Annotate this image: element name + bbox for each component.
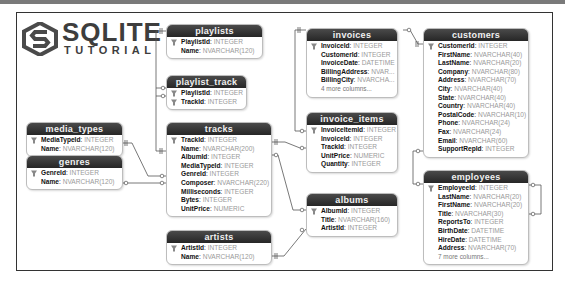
- column-row: AlbumId: INTEGER: [307, 207, 397, 216]
- column-row: Name: NVARCHAR(120): [27, 178, 122, 187]
- column-row: TrackId: INTEGER: [307, 143, 397, 152]
- more-columns-link[interactable]: 7 more columns...: [424, 253, 528, 262]
- column-row: LastName: NVARCHAR(20): [424, 193, 528, 202]
- table-invoices[interactable]: invoices InvoiceId: INTEGER CustomerId: …: [306, 28, 398, 98]
- column-row: TrackId: INTEGER: [167, 98, 246, 107]
- rel-employees-customers: [413, 151, 423, 184]
- column-row: CustomerId: INTEGER: [307, 51, 397, 60]
- column-row: Name: NVARCHAR(120): [167, 47, 262, 56]
- primary-key-icon: [170, 90, 178, 97]
- table-artists[interactable]: artists ArtistId: INTEGER Name: NVARCHAR…: [166, 230, 272, 265]
- column-row: Country: NVARCHAR(40): [424, 102, 528, 111]
- column-row: UnitPrice: NUMERIC: [307, 152, 397, 161]
- table-tracks[interactable]: tracks TrackId: INTEGER Name: NVARCHAR(2…: [166, 122, 272, 217]
- column-row: FirstName: NVARCHAR(20): [424, 201, 528, 210]
- column-row: Address: NVARCHAR(70): [424, 76, 528, 85]
- column-row: City: NVARCHAR(40): [424, 85, 528, 94]
- column-row: ArtistId: INTEGER: [167, 244, 271, 253]
- column-row: GenreId: INTEGER: [167, 170, 271, 179]
- column-row: Name: NVARCHAR(120): [167, 253, 271, 262]
- column-row: InvoiceItemId: INTEGER: [307, 126, 397, 135]
- primary-key-icon: [310, 127, 318, 134]
- primary-key-icon: [170, 99, 178, 106]
- column-row: UnitPrice: NUMERIC: [167, 205, 271, 214]
- table-playlist-track[interactable]: playlist_track PlaylistId: INTEGER Track…: [166, 75, 247, 110]
- primary-key-icon: [170, 245, 178, 252]
- more-columns-link[interactable]: 4 more columns...: [307, 85, 397, 94]
- table-header: customers: [424, 29, 528, 41]
- column-row: MediaTypeId: INTEGER: [167, 162, 271, 171]
- column-row: GenreId: INTEGER: [27, 169, 122, 178]
- table-header: playlists: [167, 25, 262, 37]
- primary-key-icon: [427, 43, 435, 50]
- column-row: InvoiceId: INTEGER: [307, 135, 397, 144]
- rel-customers-invoices: [403, 30, 423, 44]
- table-header: media_types: [27, 123, 122, 135]
- column-row: AlbumId: INTEGER: [167, 153, 271, 162]
- table-albums[interactable]: albums AlbumId: INTEGER Title: NVARCHAR(…: [306, 193, 398, 237]
- column-row: Email: NVARCHAR(60): [424, 137, 528, 146]
- rel-media-types-tracks: [121, 143, 166, 176]
- rel-tracks-albums: [270, 155, 306, 210]
- column-row: ArtistId: INTEGER: [307, 224, 397, 233]
- column-row: FirstName: NVARCHAR(40): [424, 51, 528, 60]
- table-header: invoice_items: [307, 113, 397, 125]
- rel-playlists-tracks: [156, 31, 166, 151]
- column-row: Quantity: INTEGER: [307, 160, 397, 169]
- column-row: Address: NVARCHAR(70): [424, 244, 528, 253]
- table-genres[interactable]: genres GenreId: INTEGER Name: NVARCHAR(1…: [26, 155, 123, 190]
- table-employees[interactable]: employees EmployeeId: INTEGER LastName: …: [423, 170, 529, 265]
- table-header: tracks: [167, 123, 271, 135]
- primary-key-icon: [170, 137, 178, 144]
- column-row: Milliseconds: INTEGER: [167, 188, 271, 197]
- primary-key-icon: [30, 170, 38, 177]
- table-header: artists: [167, 231, 271, 243]
- table-invoice-items[interactable]: invoice_items InvoiceItemId: INTEGER Inv…: [306, 112, 398, 173]
- column-row: Fax: NVARCHAR(24): [424, 128, 528, 137]
- rel-invoices-invoice-items: [295, 30, 306, 131]
- table-header: employees: [424, 171, 528, 183]
- column-row: InvoiceDate: DATETIME: [307, 59, 397, 68]
- table-header: genres: [27, 156, 122, 168]
- column-row: BirthDate: DATETIME: [424, 227, 528, 236]
- table-customers[interactable]: customers CustomerId: INTEGER FirstName:…: [423, 28, 529, 158]
- column-row: State: NVARCHAR(40): [424, 94, 528, 103]
- primary-key-icon: [310, 43, 318, 50]
- column-row: EmployeeId: INTEGER: [424, 184, 528, 193]
- column-row: Phone: NVARCHAR(24): [424, 119, 528, 128]
- column-row: LastName: NVARCHAR(20): [424, 59, 528, 68]
- primary-key-icon: [170, 39, 178, 46]
- column-row: PostalCode: NVARCHAR(10): [424, 111, 528, 120]
- column-row: Name: NVARCHAR(120): [27, 145, 122, 154]
- column-row: Title: NVARCHAR(160): [307, 216, 397, 225]
- column-row: InvoiceId: INTEGER: [307, 42, 397, 51]
- column-row: Name: NVARCHAR(200): [167, 145, 271, 154]
- table-header: playlist_track: [167, 76, 246, 88]
- primary-key-icon: [310, 208, 318, 215]
- rel-artists-albums: [270, 229, 306, 256]
- column-row: ReportsTo: INTEGER: [424, 218, 528, 227]
- primary-key-icon: [30, 137, 38, 144]
- column-row: MediaTypeId: INTEGER: [27, 136, 122, 145]
- primary-key-icon: [427, 185, 435, 192]
- column-row: Title: NVARCHAR(30): [424, 210, 528, 219]
- table-header: invoices: [307, 29, 397, 41]
- column-row: BillingAddress: NVAR...: [307, 68, 397, 77]
- column-row: Composer: NVARCHAR(220): [167, 179, 271, 188]
- rel-employees-self: [527, 185, 541, 214]
- table-media-types[interactable]: media_types MediaTypeId: INTEGER Name: N…: [26, 122, 123, 157]
- table-header: albums: [307, 194, 397, 206]
- column-row: TrackId: INTEGER: [167, 136, 271, 145]
- column-row: PlaylistId: INTEGER: [167, 38, 262, 47]
- column-row: SupportRepId: INTEGER: [424, 145, 528, 154]
- column-row: PlaylistId: INTEGER: [167, 89, 246, 98]
- column-row: Company: NVARCHAR(80): [424, 68, 528, 77]
- column-row: BillingCity: NVARCHA...: [307, 76, 397, 85]
- column-row: CustomerId: INTEGER: [424, 42, 528, 51]
- column-row: Bytes: INTEGER: [167, 196, 271, 205]
- column-row: HireDate: DATETIME: [424, 236, 528, 245]
- table-playlists[interactable]: playlists PlaylistId: INTEGER Name: NVAR…: [166, 24, 263, 59]
